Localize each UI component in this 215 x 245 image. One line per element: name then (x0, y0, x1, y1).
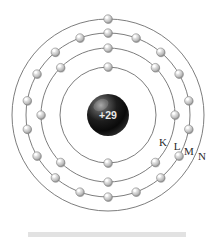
electron-m-4 (33, 70, 42, 79)
shell-label-n: N (198, 150, 206, 162)
electron-m-7 (33, 152, 42, 161)
nucleus: +29 (87, 94, 129, 136)
electron-n-1 (104, 15, 113, 24)
electron-l-6 (151, 158, 160, 167)
electron-m-8 (51, 174, 60, 183)
electron-m-10 (104, 193, 113, 202)
electron-m-9 (76, 188, 85, 197)
electron-k-2 (104, 159, 113, 168)
electron-l-3 (37, 111, 46, 120)
electron-m-18 (132, 34, 141, 43)
electron-k-1 (104, 63, 113, 72)
nucleus-charge-label: +29 (99, 109, 117, 121)
shell-label-k: K (159, 136, 167, 148)
electron-m-16 (175, 70, 184, 79)
electron-m-6 (23, 125, 32, 134)
electron-m-2 (76, 34, 85, 43)
bohr-model-figure: +29 KLMN (0, 0, 215, 245)
electron-m-15 (185, 97, 194, 106)
electron-l-8 (151, 63, 160, 72)
footer-divider-bar (28, 232, 186, 237)
electron-m-1 (104, 29, 113, 38)
shell-label-l: L (174, 140, 181, 152)
electron-m-17 (157, 48, 166, 57)
electron-m-5 (23, 97, 32, 106)
electron-m-11 (132, 188, 141, 197)
electron-l-7 (171, 111, 180, 120)
electron-l-1 (104, 44, 113, 53)
atom-diagram: +29 KLMN (0, 0, 215, 245)
electron-l-4 (56, 158, 65, 167)
electron-m-14 (185, 125, 194, 134)
electron-l-5 (104, 178, 113, 187)
electron-m-13 (175, 152, 184, 161)
shell-label-m: M (184, 145, 194, 157)
